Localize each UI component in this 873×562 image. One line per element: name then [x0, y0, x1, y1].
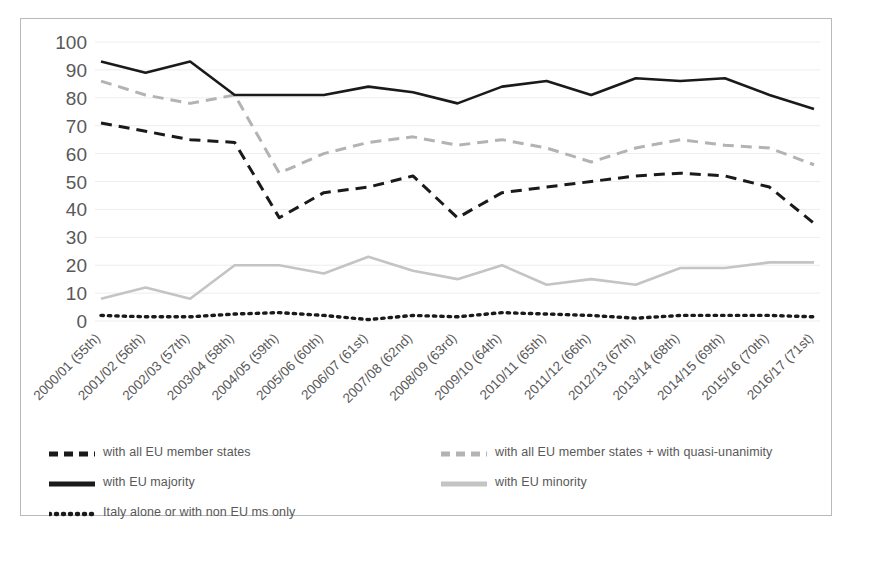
- plot-area: 1009080706050403020100 2000/01 (55th)200…: [21, 19, 833, 439]
- y-tick-label: 70: [66, 116, 87, 137]
- x-axis-tick-labels: 2000/01 (55th)2001/02 (56th)2002/03 (57t…: [30, 331, 816, 406]
- legend-column-right: with all EU member states + with quasi-u…: [441, 437, 772, 497]
- y-tick-label: 0: [76, 311, 87, 332]
- legend-entry[interactable]: with EU minority: [441, 467, 772, 497]
- legend-entry[interactable]: with all EU member states + with quasi-u…: [441, 437, 772, 467]
- y-tick-label: 90: [66, 60, 87, 81]
- series-line-3: [101, 257, 814, 299]
- chart-legend: with all EU member stateswith EU majorit…: [21, 437, 831, 515]
- legend-entry[interactable]: with EU majority: [49, 467, 295, 497]
- y-tick-label: 40: [66, 199, 87, 220]
- y-tick-label: 10: [66, 283, 87, 304]
- legend-entry-label: with all EU member states: [103, 445, 251, 459]
- chart-figure: 1009080706050403020100 2000/01 (55th)200…: [20, 18, 832, 516]
- legend-entry-label: with EU majority: [103, 475, 195, 489]
- y-tick-label: 60: [66, 144, 87, 165]
- series-line-4: [101, 313, 814, 320]
- series-line-2: [101, 62, 814, 109]
- legend-swatch-dotted: [49, 506, 95, 518]
- y-tick-label: 20: [66, 255, 87, 276]
- data-series-group: [101, 62, 814, 320]
- legend-entry-label: with EU minority: [495, 475, 587, 489]
- y-tick-label: 80: [66, 88, 87, 109]
- legend-entry[interactable]: with all EU member states: [49, 437, 295, 467]
- legend-entry-label: Italy alone or with non EU ms only: [103, 505, 295, 519]
- legend-column-left: with all EU member stateswith EU majorit…: [49, 437, 295, 527]
- legend-swatch-dashed: [441, 446, 487, 458]
- legend-entry[interactable]: Italy alone or with non EU ms only: [49, 497, 295, 527]
- y-tick-label: 50: [66, 172, 87, 193]
- legend-swatch-solid: [49, 476, 95, 488]
- y-tick-label: 100: [55, 32, 87, 53]
- series-line-1: [101, 81, 814, 173]
- legend-entry-label: with all EU member states + with quasi-u…: [495, 445, 772, 459]
- y-axis-tick-labels: 1009080706050403020100: [55, 32, 87, 332]
- line-chart-svg: 1009080706050403020100 2000/01 (55th)200…: [21, 19, 833, 439]
- y-tick-label: 30: [66, 227, 87, 248]
- legend-swatch-solid: [441, 476, 487, 488]
- legend-swatch-dashed: [49, 446, 95, 458]
- series-line-0: [101, 123, 814, 223]
